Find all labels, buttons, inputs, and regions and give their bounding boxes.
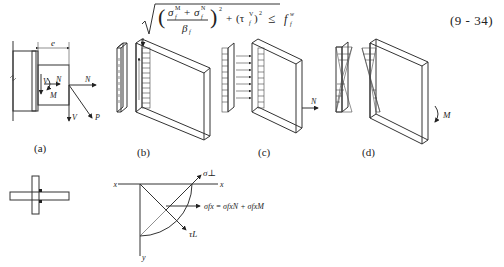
label-m-inner: M — [49, 91, 58, 100]
cross-section — [10, 176, 69, 214]
label-sigma-fx: σfx = σfxN + σfxM — [204, 202, 265, 211]
open-paren: ( — [158, 4, 165, 29]
label-x-left: x — [112, 180, 117, 189]
label-m-d: M — [442, 110, 451, 120]
stress-decomposition-diagram: x x y σ⊥ τL σfx = σfxN + σfxM — [112, 168, 265, 262]
weld-strength-equation: ( σ M f + σ N f β f ) 2 + (τ V f ) 2 ≤ f… — [140, 2, 350, 36]
panel-b: V (b) — [117, 38, 210, 159]
beta: β — [181, 22, 188, 34]
sup-N: N — [201, 5, 206, 11]
panel-d: M (d) — [336, 39, 451, 159]
sub-f: f — [175, 14, 178, 20]
sup-w: w — [290, 11, 294, 17]
weld-stress-figure: e V N M N V P (a) — [0, 38, 504, 267]
label-e: e — [51, 38, 55, 48]
sup-M: M — [175, 5, 181, 11]
panel-a: e V N M N V P (a) — [10, 38, 100, 155]
plus-sign: + — [184, 6, 190, 18]
sigma-N: σ — [194, 6, 200, 18]
label-n-outer: N — [84, 75, 91, 84]
plate-c — [252, 39, 302, 128]
sub-f-2: f — [201, 14, 204, 20]
caption-b: (b) — [137, 146, 150, 159]
label-v-inner: V — [43, 77, 49, 86]
close-paren: ) — [210, 4, 217, 29]
label-n-c: N — [310, 97, 317, 106]
label-sigma-perp: σ⊥ — [203, 168, 216, 178]
caption-d: (d) — [362, 146, 375, 159]
equation-number: (9 - 34) — [450, 13, 493, 29]
label-tau-l: τL — [189, 229, 197, 239]
label-y: y — [141, 253, 146, 262]
exponent-2b: 2 — [259, 10, 262, 16]
leq-sign: ≤ — [268, 11, 275, 26]
label-x-right: x — [219, 180, 224, 189]
plate-b — [136, 39, 210, 136]
tau-close-paren: ) — [254, 12, 258, 25]
beta-sub-f: f — [189, 29, 192, 35]
label-v-outer: V — [72, 113, 78, 122]
exponent-2: 2 — [219, 6, 222, 12]
label-n-inner: N — [55, 75, 62, 84]
tau-term: (τ — [236, 12, 245, 25]
plate-d — [370, 39, 428, 140]
panel-c: N (c) — [222, 39, 318, 159]
label-p: P — [94, 113, 100, 122]
caption-a: (a) — [34, 142, 47, 155]
f-sub-f: f — [290, 21, 293, 27]
plus-sign-2: + — [226, 12, 232, 24]
f-symbol: f — [284, 12, 289, 26]
moment-arrow-d — [435, 106, 438, 122]
sigma-M: σ — [168, 6, 174, 18]
column — [13, 51, 36, 111]
end-plate — [32, 51, 38, 111]
break-mark — [10, 75, 16, 81]
tau-sub-f: f — [249, 20, 252, 26]
caption-c: (c) — [258, 146, 271, 159]
